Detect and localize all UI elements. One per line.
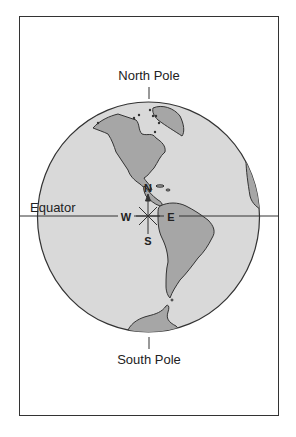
- south-pole-label: South Pole: [117, 352, 181, 367]
- globe-illustration: [0, 0, 296, 437]
- compass-south-label: S: [144, 235, 151, 247]
- equator-label: Equator: [30, 200, 76, 215]
- north-pole-label: North Pole: [118, 68, 179, 83]
- compass-north-label: N: [144, 182, 152, 194]
- compass-east-label: E: [167, 211, 174, 223]
- compass-west-label: W: [121, 211, 131, 223]
